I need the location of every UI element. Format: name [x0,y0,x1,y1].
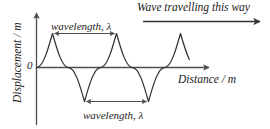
wave-direction-label: Wave travelling this way [137,2,250,14]
wavelength-top-label: wavelength, λ [51,21,111,32]
x-axis-label: Distance / m [178,74,236,86]
y-axis-label: Displacement / m [12,8,24,118]
wave-diagram: Wave travelling this way wavelength, λ w… [0,0,270,129]
wavelength-bottom-label: wavelength, λ [83,110,143,121]
origin-label: 0 [27,60,33,71]
